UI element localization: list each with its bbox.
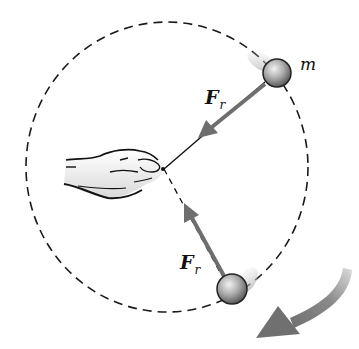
mass-ball-bottom: [217, 274, 247, 304]
hand-icon: [64, 150, 165, 199]
circular-motion-diagram: [0, 0, 359, 349]
force-label-bottom-sub: r: [195, 263, 201, 277]
force-label-bottom-main: F: [180, 251, 194, 273]
force-label-top: Fr: [205, 88, 225, 107]
force-label-top-main: F: [205, 86, 219, 108]
force-label-top-sub: r: [220, 98, 226, 112]
mass-label: m: [300, 56, 316, 73]
motion-direction-arrow: [256, 268, 352, 338]
mass-ball-top: [263, 59, 291, 87]
force-label-bottom: Fr: [180, 253, 200, 272]
